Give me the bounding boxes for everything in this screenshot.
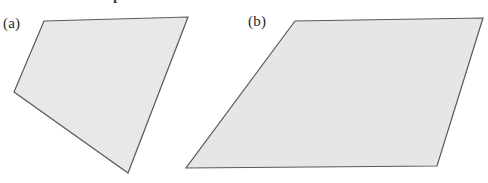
- polygon-shape-a: [14, 17, 188, 173]
- panel-label-b: (b): [248, 14, 266, 29]
- panel-label-a: (a): [3, 16, 20, 31]
- figure-canvas: [0, 0, 488, 183]
- figure-container: Measure their separation at (a) (b): [0, 0, 488, 183]
- polygon-shape-b: [186, 18, 483, 168]
